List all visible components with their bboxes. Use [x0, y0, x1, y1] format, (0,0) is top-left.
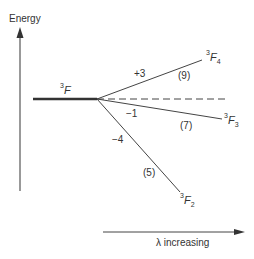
level-line-f2 [97, 99, 180, 192]
term-label-f2: 3F2 [180, 192, 195, 208]
energy-diagram-canvas [0, 0, 254, 259]
term-label-f3: 3F3 [224, 112, 239, 128]
energy-axis [17, 27, 24, 191]
level-line-f3 [97, 99, 222, 119]
parent-term-label: 3F [60, 82, 71, 96]
degeneracy-label-f2: (5) [143, 168, 155, 178]
term-label-f4: 3F4 [206, 49, 221, 65]
arrow-right-icon [234, 229, 245, 235]
shift-label-f3: −1 [126, 109, 137, 119]
degeneracy-label-f4: (9) [178, 71, 190, 81]
degeneracy-label-f3: (7) [180, 121, 192, 131]
energy-axis-label: Energy [9, 14, 41, 24]
shift-label-f4: +3 [134, 69, 145, 79]
shift-label-f2: −4 [112, 135, 123, 145]
arrow-up-icon [17, 27, 24, 38]
lambda-axis-label: λ increasing [156, 238, 209, 248]
lambda-axis [103, 229, 245, 235]
